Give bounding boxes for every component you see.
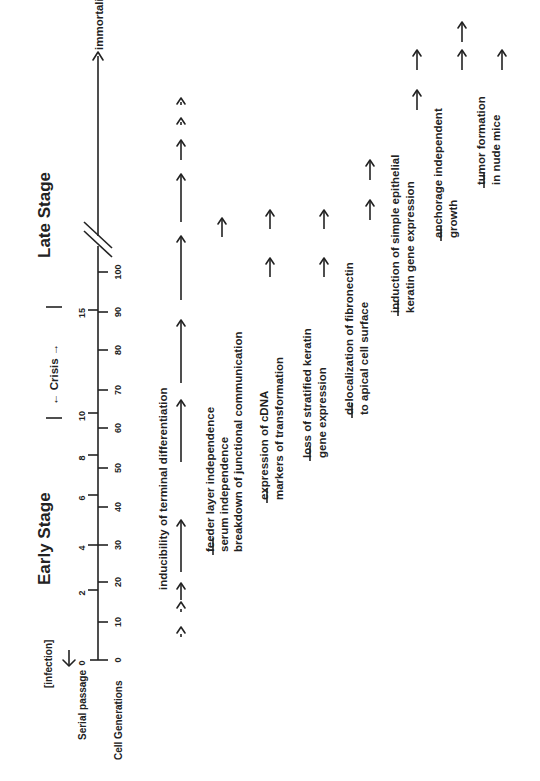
row-label-keratin-1: loss of stratified keratin <box>301 328 313 458</box>
progress-arrow-icon <box>413 90 421 110</box>
crisis-bracket: ← Crisis → <box>46 307 62 418</box>
row-fibronectin: delocalization of fibronectin to apical … <box>343 160 374 418</box>
progress-arrow-icon <box>177 98 185 105</box>
cell-generation-tick-label: 70 <box>113 385 123 395</box>
progress-arrow-icon <box>498 50 506 70</box>
row-label-tumor-1: tumor formation <box>475 96 487 185</box>
progress-arrow-icon <box>177 140 185 160</box>
cell-generation-tick-label: 90 <box>113 307 123 317</box>
row-cdna: expression of cDNA markers of transforma… <box>258 210 285 503</box>
progress-arrow-icon <box>218 218 226 237</box>
row-tumor-formation: tumor formation in nude mice <box>475 50 506 188</box>
row-label-fibronectin-2: to apical cell surface <box>358 302 370 415</box>
progress-arrow-icon <box>177 627 185 637</box>
row-label-terminal-differentiation: inducibility of terminal differentiation <box>157 387 169 590</box>
cell-generation-tick-label: 30 <box>113 540 123 550</box>
serial-passage-tick-label: 2 <box>77 590 87 595</box>
row-label-simple-keratin-2: keratin gene expression <box>404 181 416 313</box>
cell-generation-tick-label: 0 <box>113 657 123 662</box>
progress-arrow-icon <box>366 200 374 220</box>
row-label-serum: serum independence <box>218 437 230 552</box>
progress-arrow-icon <box>266 210 274 229</box>
late-stage-heading: Late Stage <box>35 172 54 258</box>
progress-arrow-icon <box>177 400 185 462</box>
progress-arrow-icon <box>177 236 185 300</box>
cell-generation-tick-label: 80 <box>113 345 123 355</box>
progress-arrow-icon <box>177 602 185 612</box>
infection-arrow-icon <box>63 650 75 666</box>
cell-generation-tick-label: 60 <box>113 423 123 433</box>
row-feeder-layer: feeder layer independence serum independ… <box>204 218 244 555</box>
row-arrows-terminal-differentiation <box>177 98 185 637</box>
cell-generation-tick-label: 100 <box>113 264 123 279</box>
row-simple-keratin: induction of simple epithelial keratin g… <box>389 50 421 316</box>
time-axis: 024681015 0102030405060708090100 <box>77 52 123 666</box>
progress-arrow-icon <box>320 258 328 277</box>
progress-arrow-icon <box>458 22 466 42</box>
serial-passage-tick-label: 6 <box>77 495 87 500</box>
progress-arrow-icon <box>177 320 185 383</box>
cell-generation-tick-label: 50 <box>113 463 123 473</box>
progress-arrow-icon <box>266 258 274 277</box>
timeline-diagram: Early Stage ← Crisis → Late Stage [infec… <box>0 0 540 781</box>
row-arrows-cdna <box>266 210 274 277</box>
row-label-anchorage-2: growth <box>447 200 459 238</box>
crisis-label: ← Crisis → <box>48 344 60 405</box>
progress-arrow-icon <box>177 520 185 572</box>
row-stratified-keratin: loss of stratified keratin gene expressi… <box>301 210 328 461</box>
serial-passage-label: Serial passage <box>77 670 88 740</box>
row-label-junctional: breakdown of junctional communication <box>232 332 244 552</box>
row-anchorage: anchorage independent growth <box>432 22 466 241</box>
serial-passage-tick-label: 15 <box>77 308 87 318</box>
serial-passage-ticks: 024681015 <box>77 308 98 666</box>
cell-generations-label: Cell Generations <box>113 680 124 760</box>
immortalization-label: immortalization <box>93 0 105 50</box>
row-arrows-simple-keratin <box>413 50 421 110</box>
progress-arrow-icon <box>177 174 185 222</box>
row-arrows-feeder-layer <box>218 218 226 237</box>
progress-arrow-icon <box>177 118 185 125</box>
serial-passage-tick-label: 8 <box>77 455 87 460</box>
row-label-tumor-2: in nude mice <box>490 115 502 185</box>
row-arrows-tumor-formation <box>498 50 506 70</box>
progress-arrow-icon <box>413 50 421 70</box>
serial-passage-tick-label: 4 <box>77 545 87 550</box>
serial-passage-tick-label: 0 <box>77 660 87 665</box>
row-label-cdna-2: markers of transformation <box>273 357 285 500</box>
serial-passage-tick-label: 10 <box>77 411 87 421</box>
early-stage-heading: Early Stage <box>35 492 54 585</box>
cell-generation-tick-label: 20 <box>113 577 123 587</box>
row-label-fibronectin-1: delocalization of fibronectin <box>343 262 355 415</box>
row-arrows-anchorage <box>458 22 466 70</box>
infection-label: [infection] <box>43 640 54 688</box>
cell-generation-ticks: 0102030405060708090100 <box>98 264 123 662</box>
row-label-anchorage-1: anchorage independent <box>432 108 444 238</box>
row-label-feeder-layer: feeder layer independence <box>204 407 216 552</box>
progress-arrow-icon <box>458 50 466 70</box>
progress-arrow-icon <box>320 210 328 229</box>
row-label-simple-keratin-1: induction of simple epithelial <box>389 155 401 313</box>
row-label-cdna-1: expression of cDNA <box>258 391 270 500</box>
row-arrows-stratified-keratin <box>320 210 328 277</box>
row-arrows-fibronectin <box>366 160 374 220</box>
cell-generation-tick-label: 40 <box>113 502 123 512</box>
progress-arrow-icon <box>366 160 374 180</box>
row-label-keratin-2: gene expression <box>316 367 328 458</box>
cell-generation-tick-label: 10 <box>113 617 123 627</box>
progress-arrow-icon <box>177 583 185 600</box>
